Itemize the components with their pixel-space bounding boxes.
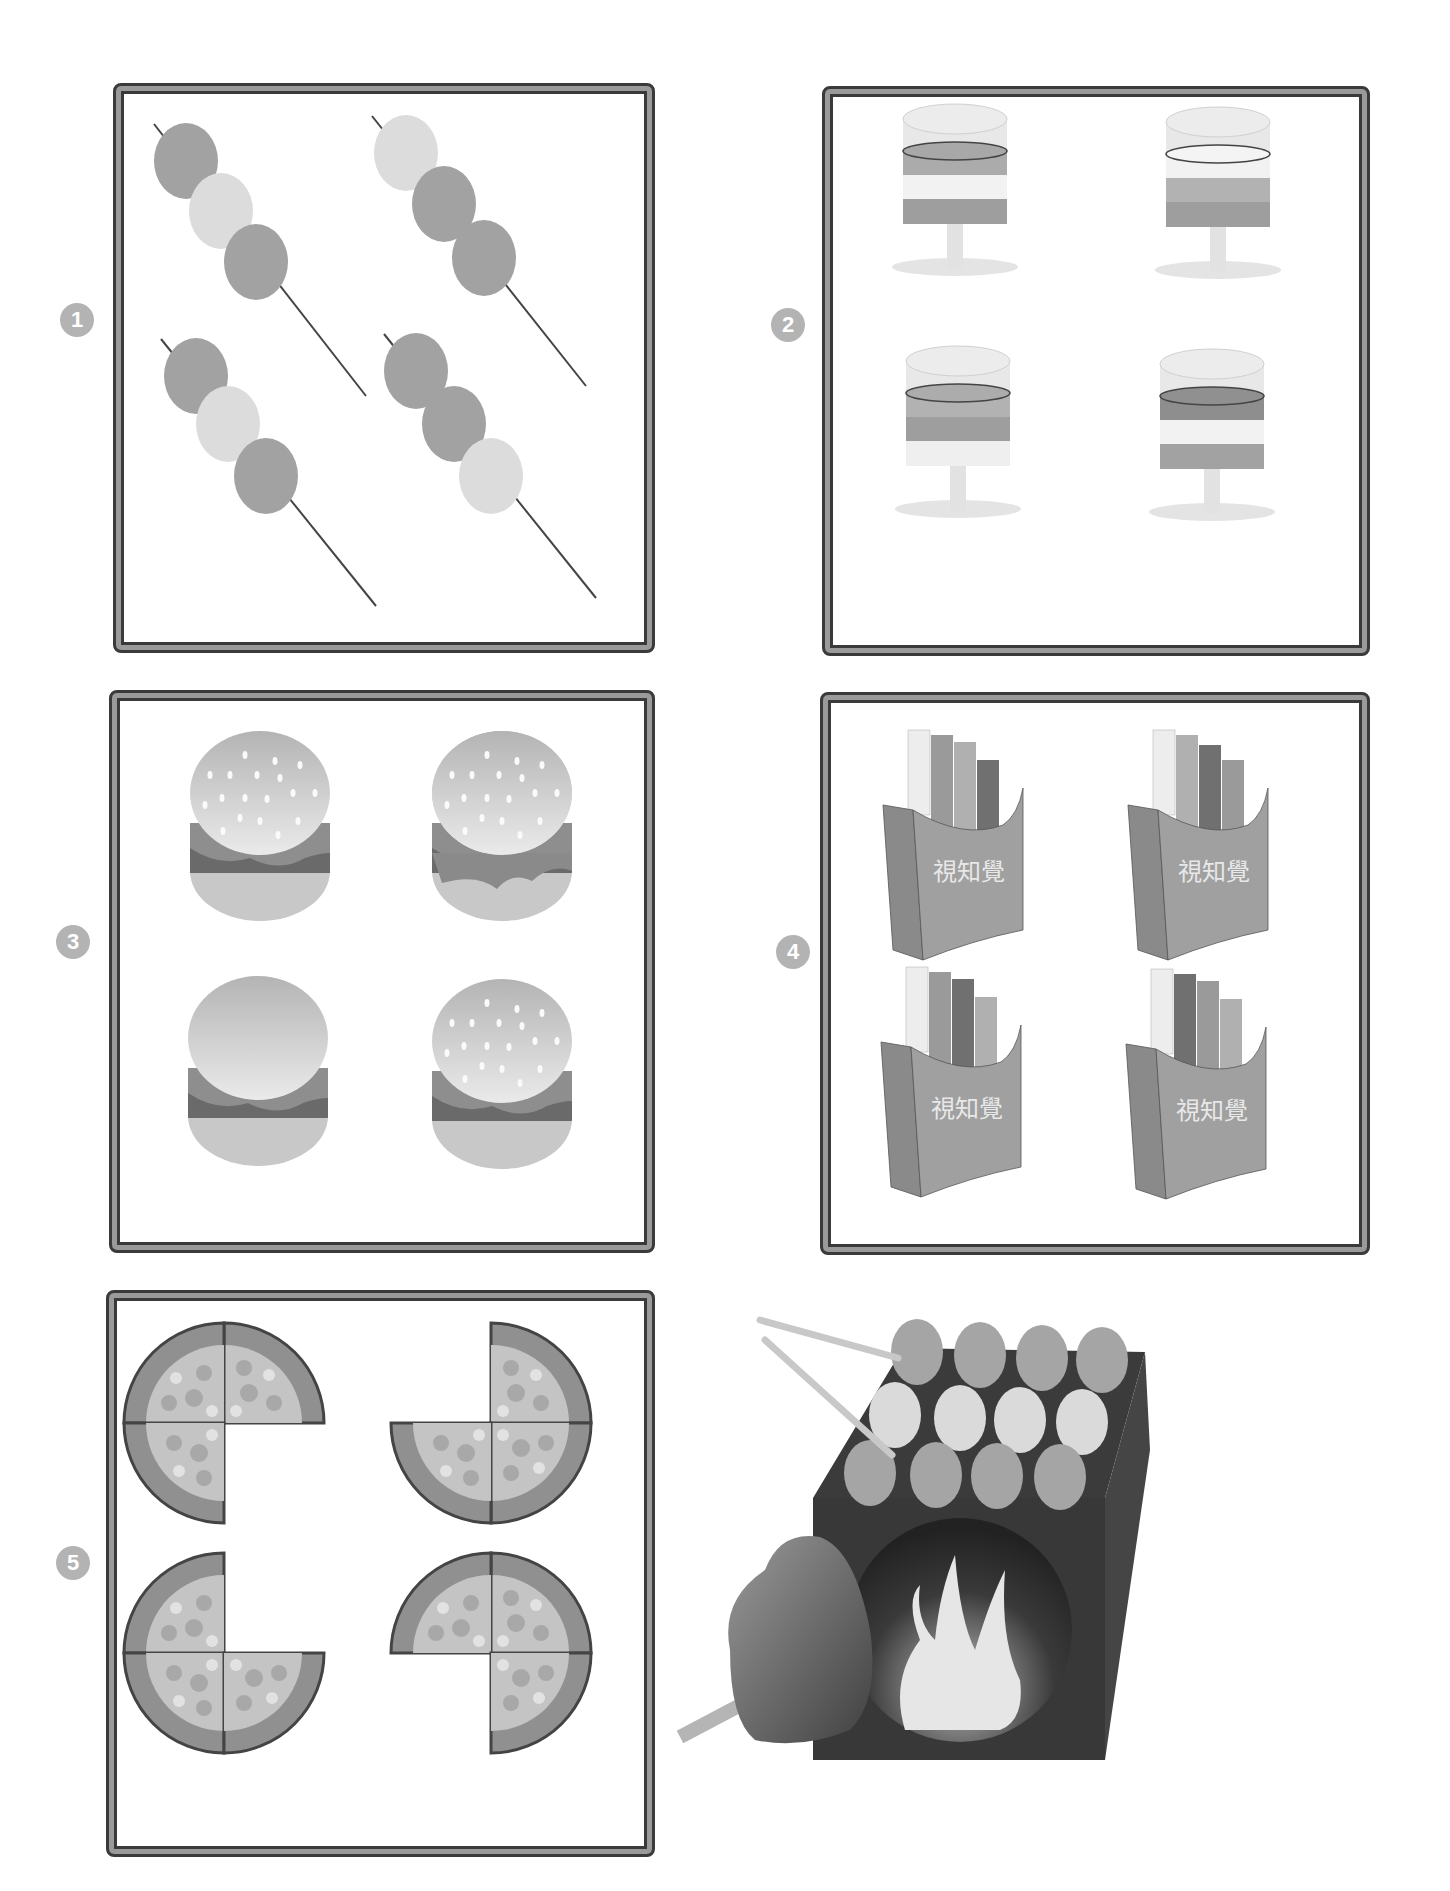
hamburgers-image bbox=[112, 693, 658, 1256]
panel-number-1: 1 bbox=[60, 303, 94, 337]
grill-stove-illustration bbox=[670, 1300, 1450, 1890]
drink-3 bbox=[895, 346, 1021, 518]
layered-drinks-image bbox=[825, 89, 1373, 659]
fries-box-text: 視知覺 bbox=[931, 1095, 1003, 1123]
burger-4 bbox=[432, 979, 572, 1169]
burger-1 bbox=[190, 731, 330, 921]
pizza-4 bbox=[391, 1553, 591, 1753]
pizza-1 bbox=[124, 1323, 324, 1523]
panel-number-5: 5 bbox=[56, 1546, 90, 1580]
panel-dango bbox=[113, 83, 655, 653]
fries-box-2: 視知覺 bbox=[1128, 730, 1268, 960]
pizza-image bbox=[109, 1293, 658, 1860]
fries-box-text: 視知覺 bbox=[1176, 1097, 1248, 1125]
burger-2 bbox=[432, 731, 572, 921]
panel-number-2: 2 bbox=[771, 308, 805, 342]
panel-number-4: 4 bbox=[776, 935, 810, 969]
burger-3 bbox=[188, 976, 328, 1166]
panel-number-3: 3 bbox=[56, 925, 90, 959]
pizza-2 bbox=[391, 1323, 591, 1523]
fries-box-text: 視知覺 bbox=[933, 858, 1005, 886]
panel-burgers bbox=[109, 690, 655, 1253]
drink-2 bbox=[1155, 107, 1281, 279]
fries-box-1: 視知覺 bbox=[883, 730, 1023, 960]
fries-box-4: 視知覺 bbox=[1126, 969, 1266, 1199]
drink-4 bbox=[1149, 349, 1275, 521]
drink-1 bbox=[892, 104, 1018, 276]
dango-skewer-3 bbox=[161, 338, 376, 606]
panel-drinks bbox=[822, 86, 1370, 656]
panel-pizza bbox=[106, 1290, 655, 1857]
fries-box-text: 視知覺 bbox=[1178, 858, 1250, 886]
pizza-3 bbox=[124, 1553, 324, 1753]
french-fries-image: 視知覺 視知覺 視知覺 視知覺 bbox=[823, 695, 1373, 1258]
dango-skewers-image bbox=[116, 86, 658, 656]
panel-fries: 視知覺 視知覺 視知覺 視知覺 bbox=[820, 692, 1370, 1255]
fries-box-3: 視知覺 bbox=[881, 967, 1021, 1197]
dango-skewer-4 bbox=[384, 333, 596, 598]
